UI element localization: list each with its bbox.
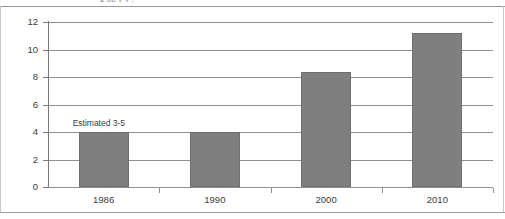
document-page: g pp y y , 024681012 1986199020002010 Es… [0,0,505,219]
y-axis-tick [43,160,48,161]
bar [412,33,462,187]
bar [79,132,129,187]
x-axis-tick-label: 2010 [392,195,482,205]
x-axis-tick-label: 1990 [170,195,260,205]
x-axis-tick-label: 2000 [281,195,371,205]
y-axis-tick-label: 0 [8,182,38,192]
y-axis-tick-label: 2 [8,155,38,165]
y-axis-tick-label: 6 [8,100,38,110]
x-axis-tick [382,188,383,193]
y-axis-tick [43,187,48,188]
x-axis-tick [493,188,494,193]
y-axis-tick-label: 8 [8,72,38,82]
x-axis-tick [159,188,160,193]
y-axis-tick [43,22,48,23]
y-axis-tick-label: 10 [8,45,38,55]
y-axis-line [48,21,49,188]
y-axis-tick [43,105,48,106]
y-axis-tick [43,50,48,51]
bar-annotation-label: Estimated 3-5 [73,119,125,128]
y-axis-tick [43,77,48,78]
y-axis-tick [43,132,48,133]
gridline [48,22,493,23]
bar [190,132,240,187]
y-axis-tick-label: 4 [8,127,38,137]
bar [301,72,351,188]
bar-chart: 024681012 1986199020002010 Estimated 3-5 [0,0,505,219]
y-axis-tick-label: 12 [8,17,38,27]
x-axis-tick-label: 1986 [59,195,149,205]
x-axis-tick [271,188,272,193]
